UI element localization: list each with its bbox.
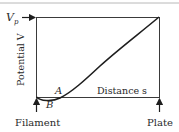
x-axis-label: Distance s (97, 85, 147, 96)
potential-distance-diagram: Vp Potential V A B Distance s Filament P… (0, 0, 179, 132)
vp-label: Vp (6, 11, 19, 26)
y-axis-label: Potential V (15, 33, 26, 86)
plate-label: Plate (147, 117, 173, 128)
point-b-label: B (45, 99, 53, 110)
filament-label: Filament (15, 117, 60, 128)
point-a-label: A (54, 85, 62, 96)
